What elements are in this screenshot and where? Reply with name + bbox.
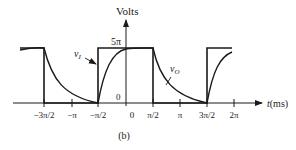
svg-text:0: 0	[130, 110, 135, 120]
x-tick-labels: −3π/2 −π −π/2 0 π/2 π 3π/2 2π	[33, 110, 239, 120]
svg-text:2π: 2π	[229, 110, 239, 120]
figure-caption: (b)	[118, 130, 130, 142]
zero-level-label: 0	[116, 92, 121, 102]
svg-text:π: π	[178, 110, 183, 120]
svg-text:π/2: π/2	[147, 110, 159, 120]
vo-label: vO	[170, 63, 180, 76]
waveform-chart: Volts 5π 0 vI vO −3π/2 −π −π/2 0 π/2 π 3…	[0, 0, 296, 150]
vi-pointer	[85, 58, 96, 64]
y-axis-label: Volts	[116, 5, 138, 17]
svg-text:3π/2: 3π/2	[199, 110, 215, 120]
top-level-label: 5π	[111, 36, 121, 47]
x-axis-label: t(ms)	[267, 98, 288, 110]
vi-label: vI	[74, 48, 81, 61]
svg-text:−3π/2: −3π/2	[33, 110, 54, 120]
svg-text:−π/2: −π/2	[90, 110, 107, 120]
svg-text:−π: −π	[67, 110, 77, 120]
